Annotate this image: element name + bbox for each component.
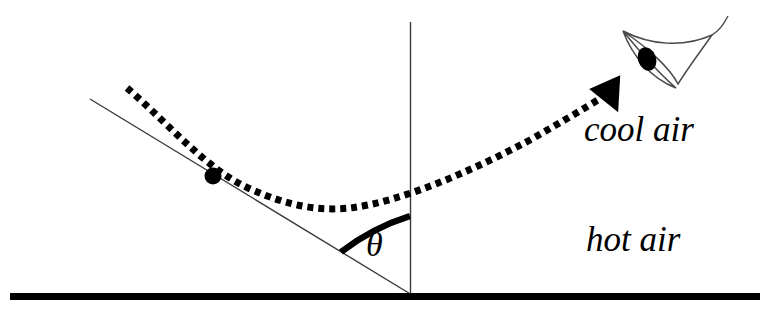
diagram-canvas — [0, 0, 770, 310]
label-hot-air: hot air — [586, 222, 680, 257]
label-cool-air: cool air — [584, 112, 694, 147]
curved-light-ray — [127, 88, 601, 209]
observer-eye — [623, 16, 728, 88]
label-theta-angle: θ — [366, 228, 383, 262]
tangent-point-marker — [205, 168, 222, 185]
tangent-line — [90, 99, 412, 295]
mirage-diagram: cool air hot air θ — [0, 0, 770, 310]
